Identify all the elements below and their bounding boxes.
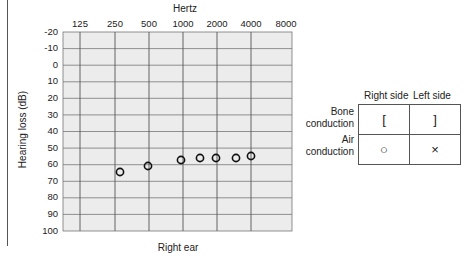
legend-row-air-line2: conduction	[302, 146, 354, 158]
legend-table: [ ] ○ ×	[358, 104, 461, 165]
legend-row-air: Air conduction	[302, 134, 354, 158]
legend-row-bone-line2: conduction	[302, 118, 354, 130]
bone-right-bracket-icon: [	[359, 105, 410, 135]
air-right-circle-icon: ○	[359, 135, 410, 165]
legend-row-air-line1: Air	[302, 134, 354, 146]
legend-row-bone-line1: Bone	[302, 106, 354, 118]
legend-row-bone: Bone conduction	[302, 106, 354, 130]
air-left-cross-icon: ×	[410, 135, 461, 165]
legend-col-left-side: Left side	[413, 90, 451, 101]
legend-col-right-side: Right side	[364, 90, 408, 101]
bone-left-bracket-icon: ]	[410, 105, 461, 135]
